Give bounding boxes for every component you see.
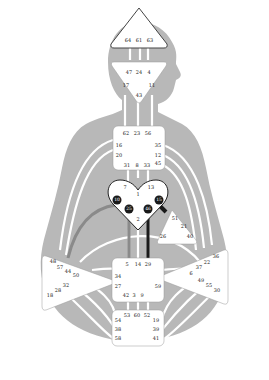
gate-51: 51 <box>172 215 178 221</box>
gate-4: 4 <box>147 69 150 75</box>
gate-7: 7 <box>123 184 126 190</box>
gate-49: 49 <box>198 277 204 283</box>
gate-3: 3 <box>132 292 135 298</box>
gate-26: 26 <box>160 233 166 239</box>
gate-53: 53 <box>124 312 130 318</box>
gate-63: 63 <box>147 37 153 43</box>
gate-15: 15 <box>156 197 162 202</box>
gate-45: 45 <box>155 160 161 166</box>
gate-8: 8 <box>135 162 138 168</box>
bodygraph-chart: 64 61 63 47 24 4 17 11 43 62 23 56 16 35… <box>0 0 269 380</box>
gate-12: 12 <box>155 152 161 158</box>
gate-35: 35 <box>155 142 161 148</box>
gate-2: 2 <box>136 216 139 222</box>
gate-10: 10 <box>114 197 120 202</box>
gate-50: 50 <box>73 272 79 278</box>
gate-30: 30 <box>214 287 220 293</box>
gate-54: 54 <box>115 317 121 323</box>
gate-64: 64 <box>125 37 131 43</box>
gate-22: 22 <box>204 259 210 265</box>
throat-center[interactable]: 62 23 56 16 35 20 12 45 31 8 33 <box>113 126 165 170</box>
gate-23: 23 <box>134 130 140 136</box>
gate-16: 16 <box>116 142 122 148</box>
gate-32: 32 <box>63 282 69 288</box>
gate-19: 19 <box>153 317 159 323</box>
gate-27: 27 <box>115 283 121 289</box>
gate-6: 6 <box>189 270 192 276</box>
sacral-center[interactable]: 5 14 29 34 27 59 42 3 9 <box>112 258 164 302</box>
gate-36: 36 <box>213 253 219 259</box>
root-center[interactable]: 53 60 52 54 19 38 39 58 41 <box>112 310 164 346</box>
gate-33: 33 <box>144 162 150 168</box>
gate-29: 29 <box>145 261 151 267</box>
gate-41: 41 <box>153 335 159 341</box>
gate-21: 21 <box>181 223 187 229</box>
gate-59: 59 <box>155 283 161 289</box>
gate-55: 55 <box>206 282 212 288</box>
gate-14: 14 <box>135 261 141 267</box>
gate-57: 57 <box>57 264 63 270</box>
gate-5: 5 <box>125 261 128 267</box>
gate-40: 40 <box>187 233 193 239</box>
gate-9: 9 <box>140 292 143 298</box>
gate-34: 34 <box>115 273 121 279</box>
gate-61: 61 <box>136 37 142 43</box>
gate-46: 46 <box>145 206 151 211</box>
gate-58: 58 <box>115 335 121 341</box>
gate-60: 60 <box>134 312 140 318</box>
gate-25: 25 <box>126 206 132 211</box>
gate-62: 62 <box>123 130 129 136</box>
gate-43: 43 <box>136 92 142 98</box>
gate-28: 28 <box>55 287 61 293</box>
gate-42: 42 <box>123 292 129 298</box>
gate-31: 31 <box>124 162 130 168</box>
gate-11: 11 <box>149 82 155 88</box>
gate-20: 20 <box>116 152 122 158</box>
gate-17: 17 <box>123 82 129 88</box>
gate-48: 48 <box>50 258 56 264</box>
gate-56: 56 <box>145 130 151 136</box>
gate-13: 13 <box>148 184 154 190</box>
gate-38: 38 <box>115 326 121 332</box>
gate-37: 37 <box>196 264 202 270</box>
gate-24: 24 <box>136 69 142 75</box>
gate-47: 47 <box>126 69 132 75</box>
gate-44: 44 <box>65 268 71 274</box>
gate-52: 52 <box>144 312 150 318</box>
gate-18: 18 <box>47 292 53 298</box>
gate-1: 1 <box>136 191 139 197</box>
gate-39: 39 <box>153 326 159 332</box>
